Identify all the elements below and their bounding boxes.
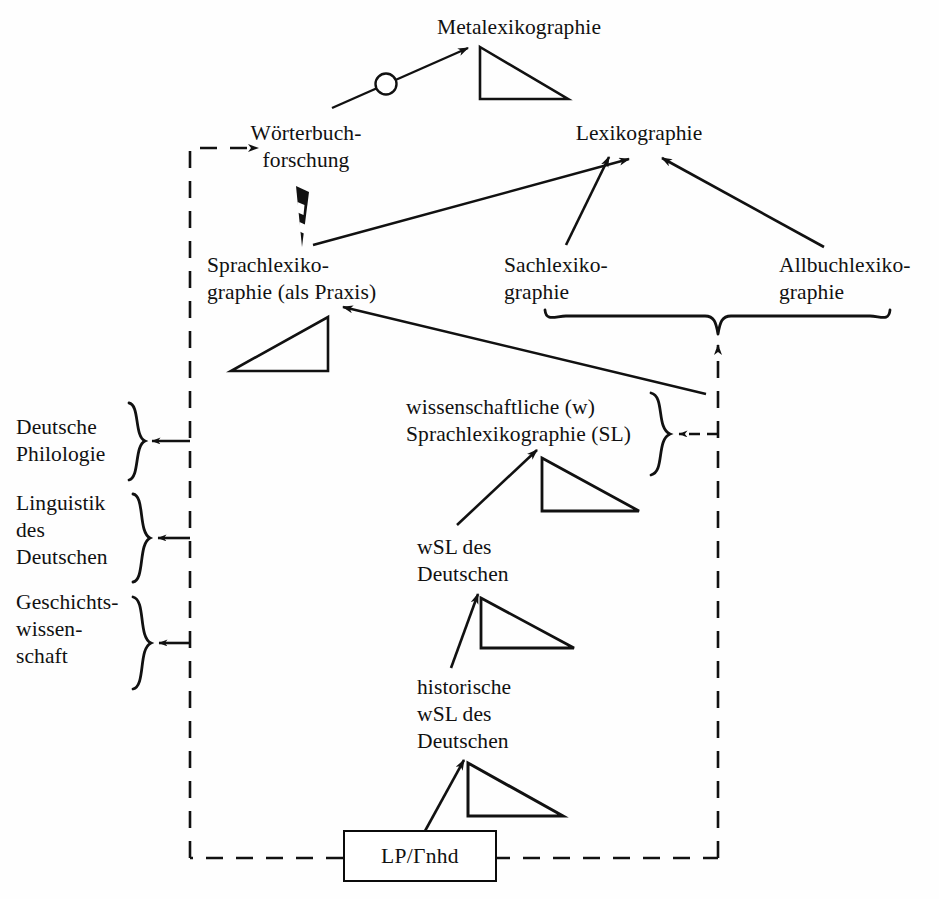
node-sachlexikographie: Sachlexiko- graphie (504, 252, 608, 306)
arrow-allbuchlex-to-lexikographie (662, 158, 824, 247)
triangle-wsl-des-deutschen (481, 598, 574, 648)
triangle-metalexikographie (480, 47, 568, 99)
diagram-graphics-layer (0, 0, 939, 899)
arrow-hist-to-wsldeutsch (451, 594, 478, 668)
node-sprachlexikographie: Sprachlexiko- graphie (als Praxis) (207, 252, 376, 306)
node-lexikographie: Lexikographie (576, 120, 703, 147)
node-historische-wsl-des-deutschen: historische wSL des Deutschen (417, 674, 511, 755)
brace-linguistik (133, 494, 150, 582)
diagram-canvas: Metalexikographie Wörterbuch- forschung … (0, 0, 939, 899)
node-woerterbuchforschung: Wörterbuch- forschung (251, 120, 362, 174)
arrow-wsl-to-sprachlex (343, 307, 706, 394)
brace-deutsche-philologie (129, 403, 145, 480)
brace-wissenschaftliche-sl (651, 393, 670, 475)
triangle-historische-wsl (468, 763, 563, 816)
node-deutsche-philologie: Deutsche Philologie (16, 414, 105, 468)
brace-geschichtswissenschaft (133, 597, 151, 689)
arrow-wb-to-metalex (332, 48, 468, 108)
node-linguistik-des-deutschen: Linguistik des Deutschen (16, 490, 108, 571)
node-metalexikographie: Metalexikographie (437, 14, 601, 41)
node-wissenschaftliche-sl: wissenschaftliche (w) Sprachlexikographi… (406, 394, 631, 448)
arrow-box-to-hist (425, 760, 464, 831)
node-geschichtswissenschaft: Geschichts- wissen- schaft (16, 589, 119, 670)
triangle-sprachlexikographie (231, 317, 328, 371)
triangle-wissenschaftliche-sl (542, 458, 639, 511)
circle-marker-icon (376, 74, 397, 95)
arrow-wb-to-sprachlex (296, 186, 309, 247)
node-allbuchlexikographie: Allbuchlexiko- graphie (779, 252, 911, 306)
brace-sach-allbuch (545, 310, 890, 334)
node-wsl-des-deutschen: wSL des Deutschen (417, 534, 509, 588)
arrow-wsldeutsch-to-wsl (457, 450, 537, 525)
node-lp-fnhd-box: LP/Гnhd (343, 830, 497, 882)
